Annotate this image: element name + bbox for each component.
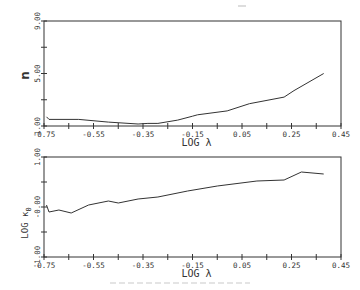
plot-frame: [44, 21, 341, 126]
y-axis-ticks: -1.00-0.001.00: [33, 147, 47, 268]
x-tick-label: -0.55: [82, 130, 105, 139]
x-tick-label: 0.45: [332, 261, 350, 270]
x-tick-label: 0.05: [233, 130, 251, 139]
x-tick-label: 0.25: [282, 261, 300, 270]
plot-frame: [44, 157, 341, 257]
x-tick-label: -0.35: [132, 261, 155, 270]
y-axis-ticks: 1.005.009.00: [33, 11, 47, 135]
y-tick-label: -1.00: [33, 245, 42, 268]
x-tick-label: 0.05: [233, 261, 251, 270]
y-tick-label: 1.00: [33, 116, 42, 135]
y-axis-label: LOG κ0: [20, 207, 33, 238]
x-axis-label: LOG λ: [181, 268, 211, 279]
y-tick-label: 1.00: [33, 147, 42, 166]
x-tick-label: -0.55: [82, 261, 105, 270]
plot-bottom: -0.75-0.55-0.35-0.150.050.250.45LOG λ-1.…: [20, 147, 350, 279]
y-tick-label: -0.00: [33, 195, 42, 218]
x-tick-label: -0.35: [132, 130, 155, 139]
y-axis-label: n: [18, 71, 32, 80]
data-line: [47, 172, 324, 213]
data-line: [47, 74, 324, 125]
y-tick-label: 9.00: [33, 11, 42, 30]
plot-top: -0.75-0.55-0.35-0.150.050.250.45LOG λ1.0…: [18, 11, 350, 148]
y-tick-label: 5.00: [33, 64, 42, 83]
x-tick-label: 0.25: [282, 130, 300, 139]
x-axis-label: LOG λ: [181, 137, 211, 148]
chart-canvas: -0.75-0.55-0.35-0.150.050.250.45LOG λ1.0…: [0, 0, 360, 290]
x-tick-label: 0.45: [332, 130, 350, 139]
